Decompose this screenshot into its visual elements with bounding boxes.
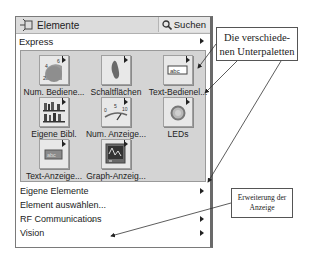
magnifier-icon [162,20,172,30]
callout-text-line2: nen Unterpaletten [217,45,297,59]
button-switch-icon [101,55,131,85]
tile-label: Text-Bedienel... [147,87,209,97]
svg-text:0: 0 [104,107,107,113]
expand-chevron-icon[interactable]: ⌄ [89,214,97,224]
callout-subpalettes: Die verschiede- nen Unterpaletten [216,27,298,61]
list-item-rf-communications[interactable]: RF Communications [16,212,210,226]
palette-titlebar[interactable]: Elemente Suchen [16,17,210,34]
search-label: Suchen [174,19,206,30]
text-control-abc-icon: abc [163,55,193,85]
tile-label: Eigene Bibl. [23,129,85,139]
tile-numeric-indicators[interactable]: 0 5 10 Num. Anzeige... [85,97,147,139]
list-item-vision[interactable]: Vision [16,226,210,240]
tile-numeric-controls[interactable]: 4 6 2 Num. Bediene... [23,55,85,97]
tile-label: Graph-Anzeig... [85,171,147,181]
callout-text-line1: Die verschiede- [217,31,297,45]
search-button[interactable]: Suchen [158,17,210,32]
submenu-arrow-icon [200,38,204,44]
svg-text:abc: abc [47,152,56,158]
subpalette-grid: 4 6 2 Num. Bediene... Schaltflächen [20,50,206,182]
svg-text:abc: abc [170,68,180,74]
user-library-icon [39,97,69,127]
palette-title: Elemente [37,20,79,31]
list-item-eigene-elemente[interactable]: Eigene Elemente [16,184,210,198]
tile-label: LEDs [147,129,209,139]
graph-indicator-icon [101,139,131,169]
callout-text-line2: Anzeige [232,203,292,213]
category-label: Express [19,36,53,47]
tile-leds[interactable]: LEDs [147,97,209,139]
tile-graph-indicators[interactable]: Graph-Anzeig... [85,139,147,181]
svg-text:5: 5 [114,103,117,109]
submenu-arrow-icon [200,188,204,194]
tile-label: Text-Anzeige... [23,171,85,181]
tile-text-controls[interactable]: abc Text-Bedienel... [147,55,209,97]
svg-text:10: 10 [122,106,128,112]
submenu-arrow-icon [200,216,204,222]
numeric-indicator-gauge-icon: 0 5 10 [101,97,131,127]
list-item-element-auswaehlen[interactable]: Element auswählen... [16,198,210,212]
pushpin-icon[interactable] [20,19,34,31]
list-item-label: Eigene Elemente [20,186,89,196]
tile-label: Num. Bediene... [23,87,85,97]
numeric-control-knob-icon: 4 6 2 [39,55,69,85]
list-item-label: Vision [20,228,44,238]
tile-user-library[interactable]: Eigene Bibl. [23,97,85,139]
svg-text:4: 4 [45,63,48,69]
tile-label: Num. Anzeige... [85,129,147,139]
tile-buttons[interactable]: Schaltflächen [85,55,147,97]
category-express[interactable]: Express [16,34,210,48]
controls-palette: Elemente Suchen Express 4 6 2 [15,16,213,248]
callout-text-line1: Erweiterung der [232,193,292,203]
svg-text:2: 2 [43,75,46,81]
led-icon [163,97,193,127]
svg-text:6: 6 [57,58,60,64]
list-item-label: Element auswählen... [20,200,106,210]
tile-text-indicators[interactable]: abc Text-Anzeige... [23,139,85,181]
callout-expand-display: Erweiterung der Anzeige [231,188,293,218]
submenu-arrow-icon [200,230,204,236]
tile-label: Schaltflächen [85,87,147,97]
text-indicator-abc-icon: abc [39,139,69,169]
